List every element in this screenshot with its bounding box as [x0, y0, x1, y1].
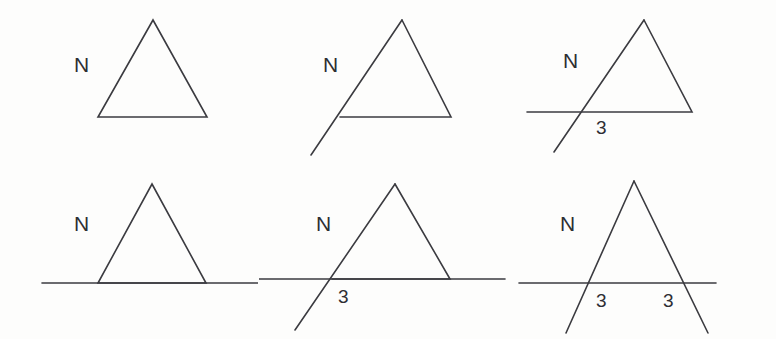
- triangle-outline: [98, 184, 206, 283]
- label-n: N: [74, 213, 89, 234]
- triangle-right-side-and-base: [332, 184, 450, 279]
- label-n: N: [74, 54, 89, 75]
- triangle-left-side-extended: [311, 20, 402, 155]
- panel-3-drawing: [518, 0, 776, 169]
- diagram-panel-2: N: [259, 0, 517, 169]
- label-angle-3-left: 3: [338, 287, 349, 306]
- label-n: N: [316, 213, 331, 234]
- label-angle-3-left: 3: [596, 118, 607, 137]
- figure-canvas: N N N 3 N N 3: [0, 0, 776, 339]
- diagram-panel-3: N 3: [518, 0, 776, 169]
- diagram-panel-5: N 3: [259, 170, 517, 339]
- diagram-panel-6: N 3 3: [518, 170, 776, 339]
- label-angle-3-right: 3: [663, 291, 674, 310]
- label-n: N: [560, 213, 575, 234]
- triangle-right-side-and-extended-base: [527, 20, 692, 112]
- label-angle-3-left: 3: [596, 291, 607, 310]
- triangle-left-side-extended: [295, 184, 395, 330]
- panel-1-drawing: [0, 0, 258, 169]
- panel-4-drawing: [0, 170, 258, 339]
- panel-5-drawing: [259, 170, 517, 339]
- panel-2-drawing: [259, 0, 517, 169]
- diagram-panel-4: N: [0, 170, 258, 339]
- triangle-outline: [98, 20, 207, 117]
- panel-6-drawing: [518, 170, 776, 339]
- label-n: N: [563, 50, 578, 71]
- diagram-panel-1: N: [0, 0, 258, 169]
- triangle-right-and-base: [340, 20, 451, 117]
- label-n: N: [323, 54, 338, 75]
